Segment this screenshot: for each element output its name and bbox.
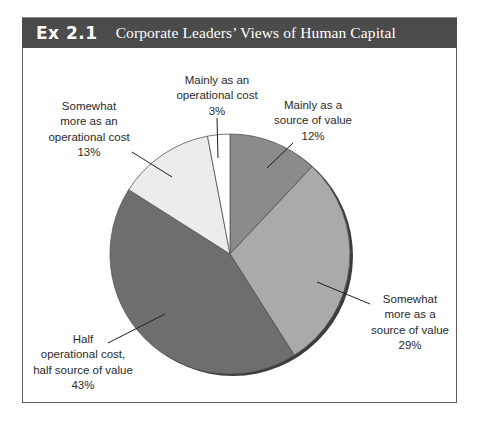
slice-label-mainly-value: Mainly as a source of value 12% xyxy=(274,98,352,144)
label-line: more as an xyxy=(48,114,129,129)
label-line: Somewhat xyxy=(48,99,129,114)
label-line: operational cost, xyxy=(33,347,133,362)
label-value: 43% xyxy=(33,378,133,393)
label-line: Mainly as an xyxy=(176,73,257,88)
slice-label-somewhat-value: Somewhat more as a source of value 29% xyxy=(371,292,449,353)
label-line: Somewhat xyxy=(371,292,449,307)
label-line: Half xyxy=(33,332,133,347)
label-line: operational cost xyxy=(48,130,129,145)
label-value: 29% xyxy=(371,338,449,353)
label-line: operational cost xyxy=(176,88,257,103)
pie-slices xyxy=(110,134,350,374)
label-value: 13% xyxy=(48,145,129,160)
slice-label-half: Half operational cost, half source of va… xyxy=(33,332,133,393)
label-line: Mainly as a xyxy=(274,98,352,113)
label-line: more as a xyxy=(371,307,449,322)
label-value: 12% xyxy=(274,129,352,144)
slice-label-somewhat-cost: Somewhat more as an operational cost 13% xyxy=(48,99,129,160)
slice-label-mainly-cost: Mainly as an operational cost 3% xyxy=(176,73,257,119)
label-line: half source of value xyxy=(33,363,133,378)
label-value: 3% xyxy=(176,104,257,119)
label-line: source of value xyxy=(274,113,352,128)
label-line: source of value xyxy=(371,323,449,338)
